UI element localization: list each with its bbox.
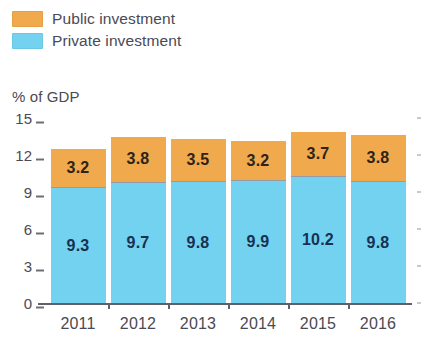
stacked-bar[interactable]: 3.89.8: [351, 135, 406, 303]
y-tick-label: 6: [10, 221, 32, 238]
right-tick-mark: [417, 228, 421, 230]
right-tick-mark: [417, 154, 421, 156]
right-tick-mark: [417, 191, 421, 193]
bar-value-label: 3.5: [187, 152, 210, 168]
bar-segment-public[interactable]: 3.7: [291, 132, 346, 178]
bar-group: 3.29.320113.89.720123.59.820133.29.92014…: [48, 118, 408, 303]
y-tick-mark: [36, 232, 44, 234]
bar-slot: 3.29.32011: [48, 118, 108, 303]
x-tick-mark: [348, 305, 350, 309]
x-tick-mark: [168, 305, 170, 309]
legend-item[interactable]: Private investment: [12, 31, 181, 50]
x-tick-label: 2015: [288, 315, 348, 333]
y-tick: 9: [10, 184, 48, 201]
bar-value-label: 9.7: [127, 235, 150, 251]
y-tick: 15: [10, 110, 48, 127]
bar-slot: 3.89.72012: [108, 118, 168, 303]
x-tick-label: 2016: [348, 315, 408, 333]
x-tick-mark: [228, 305, 230, 309]
y-axis-title: % of GDP: [12, 88, 80, 105]
bar-segment-private[interactable]: 9.9: [231, 181, 286, 303]
stacked-bar[interactable]: 3.59.8: [171, 139, 226, 303]
bar-value-label: 9.9: [247, 234, 270, 250]
bar-value-label: 9.8: [367, 235, 390, 251]
bar-slot: 3.29.92014: [228, 118, 288, 303]
x-tick-label: 2014: [228, 315, 288, 333]
bar-value-label: 9.3: [67, 238, 90, 254]
bar-segment-public[interactable]: 3.2: [231, 141, 286, 180]
y-tick-label: 3: [10, 258, 32, 275]
bar-segment-private[interactable]: 9.8: [171, 182, 226, 303]
stacked-bar[interactable]: 3.29.3: [51, 149, 106, 303]
y-tick-label: 12: [10, 147, 32, 164]
bar-segment-public[interactable]: 3.8: [351, 135, 406, 182]
chart-legend: Public investmentPrivate investment: [12, 9, 181, 50]
bar-value-label: 3.2: [247, 153, 270, 169]
y-tick-label: 15: [10, 110, 32, 127]
bar-value-label: 3.8: [367, 150, 390, 166]
bar-slot: 3.59.82013: [168, 118, 228, 303]
bar-value-label: 3.7: [307, 146, 330, 162]
plot-area: 03691215 3.29.320113.89.720123.59.820133…: [48, 118, 408, 303]
stacked-bar[interactable]: 3.29.9: [231, 141, 286, 303]
bar-segment-public[interactable]: 3.8: [111, 137, 166, 184]
legend-item[interactable]: Public investment: [12, 9, 181, 28]
x-tick-label: 2011: [48, 315, 108, 333]
y-tick-label: 0: [10, 295, 32, 312]
legend-swatch-public: [12, 11, 43, 27]
y-tick-mark: [36, 269, 44, 271]
y-tick: 6: [10, 221, 48, 238]
y-tick-mark: [36, 306, 44, 308]
y-tick-mark: [36, 121, 44, 123]
x-tick-mark: [108, 305, 110, 309]
legend-swatch-private: [12, 33, 43, 49]
y-tick: 12: [10, 147, 48, 164]
y-tick-mark: [36, 158, 44, 160]
x-tick-label: 2012: [108, 315, 168, 333]
bar-segment-private[interactable]: 9.7: [111, 183, 166, 303]
bar-segment-private[interactable]: 9.3: [51, 188, 106, 303]
legend-item-label: Private investment: [52, 32, 181, 50]
y-tick-mark: [36, 195, 44, 197]
right-tick-mark: [417, 265, 421, 267]
y-tick: 3: [10, 258, 48, 275]
bar-value-label: 9.8: [187, 235, 210, 251]
x-axis-baseline: [38, 303, 412, 305]
bar-segment-private[interactable]: 9.8: [351, 182, 406, 303]
right-tick-mark: [417, 302, 421, 304]
right-tick-mark: [417, 117, 421, 119]
x-tick-mark: [288, 305, 290, 309]
bar-value-label: 3.2: [67, 160, 90, 176]
bar-segment-private[interactable]: 10.2: [291, 177, 346, 303]
bar-slot: 3.89.82016: [348, 118, 408, 303]
bar-value-label: 3.8: [127, 151, 150, 167]
bar-segment-public[interactable]: 3.5: [171, 139, 226, 182]
stacked-bar[interactable]: 3.710.2: [291, 132, 346, 303]
legend-item-label: Public investment: [52, 10, 175, 28]
bar-slot: 3.710.22015: [288, 118, 348, 303]
y-tick-label: 9: [10, 184, 32, 201]
stacked-bar[interactable]: 3.89.7: [111, 137, 166, 304]
bar-segment-public[interactable]: 3.2: [51, 149, 106, 188]
x-tick-label: 2013: [168, 315, 228, 333]
bar-value-label: 10.2: [302, 232, 334, 248]
